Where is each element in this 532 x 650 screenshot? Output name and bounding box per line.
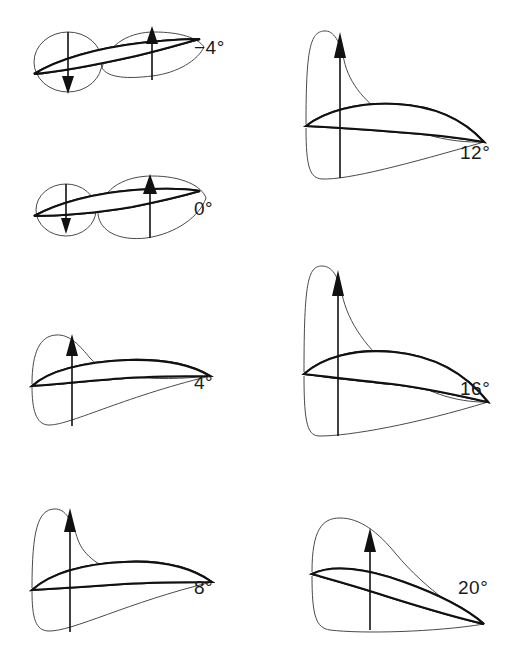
airfoil-outline-stroke	[34, 189, 200, 216]
angle-label-0: 0°	[194, 198, 213, 220]
angle-label-20: 20°	[458, 577, 488, 599]
angle-label-12: 12°	[460, 142, 490, 164]
angle-label-16: 16°	[460, 378, 490, 400]
angle-label-neg4: −4°	[194, 37, 225, 59]
angle-label-4: 4°	[194, 372, 213, 394]
airfoil-outline-stroke	[32, 360, 210, 386]
panel-angle-16	[296, 262, 506, 442]
panel-angle-8	[24, 498, 224, 638]
angle-label-8: 8°	[194, 577, 213, 599]
airfoil-outline-stroke	[32, 562, 212, 590]
lift-arrow-up	[143, 174, 157, 238]
pressure-distribution-figure: −4°	[0, 0, 532, 650]
panel-angle-neg4	[28, 18, 208, 108]
lift-arrow-up	[332, 270, 344, 436]
airfoil-outline-stroke	[306, 104, 484, 142]
panel-angle-0	[28, 168, 208, 258]
lift-arrow-up	[334, 32, 346, 178]
